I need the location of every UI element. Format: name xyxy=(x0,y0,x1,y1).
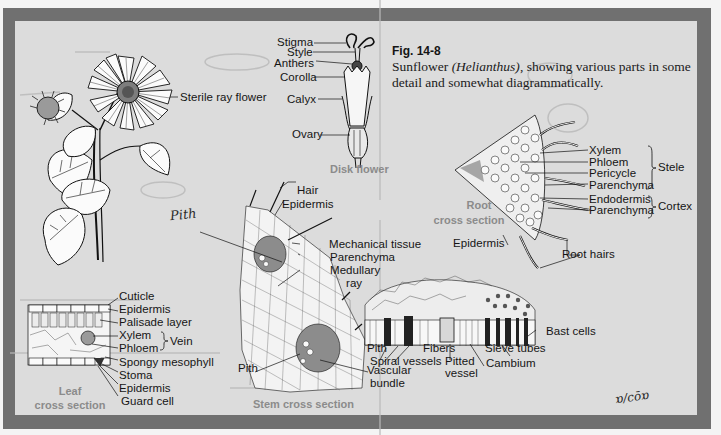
caption-scientific-name: (Helianthus) xyxy=(452,59,520,74)
label-stoma: Stoma xyxy=(119,369,153,382)
label-anthers: Anthers xyxy=(274,57,314,70)
label-sieve-tubes: Sieve tubes xyxy=(485,342,546,355)
caption-leaf-line1: Leaf xyxy=(50,385,90,398)
label-leaf-epidermis-upper: Epidermis xyxy=(119,303,171,316)
label-medullary-ray-2: ray xyxy=(346,277,362,290)
caption-root-line1: Root xyxy=(444,199,514,212)
label-bundle-pith: Pith xyxy=(367,342,387,355)
label-corolla: Corolla xyxy=(280,71,317,84)
label-cambium: Cambium xyxy=(486,357,536,370)
label-guard-cell: Guard cell xyxy=(121,395,174,408)
label-cuticle: Cuticle xyxy=(119,290,155,303)
label-cortex-group: Cortex xyxy=(658,200,692,213)
label-medullary-ray-1: Medullary xyxy=(330,264,380,277)
label-leaf-xylem: Xylem xyxy=(119,329,151,342)
figure-caption: Sunflower (Helianthus), showing various … xyxy=(392,59,692,90)
label-mechanical-tissue: Mechanical tissue xyxy=(329,238,421,251)
label-leaf-phloem: Phloem xyxy=(119,342,158,355)
caption-prefix: Sunflower xyxy=(392,59,452,74)
stem-cross-section-drawing xyxy=(200,182,368,392)
disk-flower-drawing xyxy=(342,34,374,168)
label-vascular-bundle-2: bundle xyxy=(370,377,405,390)
label-leaf-epidermis-lower: Epidermis xyxy=(119,382,171,395)
label-root-parenchyma-cortex: Parenchyma xyxy=(589,204,654,217)
caption-leaf-line2: cross section xyxy=(30,399,110,412)
label-stem-epidermis: Epidermis xyxy=(282,198,334,211)
label-calyx: Calyx xyxy=(287,93,316,106)
figure-number: Fig. 14-8 xyxy=(392,44,441,58)
caption-disk-flower: Disk flower xyxy=(330,163,389,176)
label-vein-group: Vein xyxy=(170,335,193,348)
label-ovary: Ovary xyxy=(292,128,323,141)
label-stem-hair: Hair xyxy=(297,184,318,197)
label-bast-cells: Bast cells xyxy=(546,325,596,338)
label-spiral-vessels: Spiral vessels xyxy=(370,355,442,368)
label-root-epidermis: Epidermis xyxy=(453,237,505,250)
sunflower-plant-drawing xyxy=(30,54,172,265)
handwritten-pith-note: Pith xyxy=(169,206,197,224)
label-palisade-layer: Palisade layer xyxy=(119,316,192,329)
caption-root-line2: cross section xyxy=(424,214,514,227)
caption-stem-cross-section: Stem cross section xyxy=(253,398,354,411)
label-stem-pith: Pith xyxy=(238,362,258,375)
label-stem-parenchyma: Parenchyma xyxy=(330,251,395,264)
label-fibers: Fibers xyxy=(423,342,455,355)
label-sterile-ray-flower: Sterile ray flower xyxy=(180,91,267,104)
label-root-parenchyma-stele: Parenchyma xyxy=(589,179,654,192)
label-root-hairs: Root hairs xyxy=(562,248,615,261)
label-spongy-mesophyll: Spongy mesophyll xyxy=(119,356,214,369)
label-pitted-vessel-2: vessel xyxy=(445,367,478,380)
label-stele-group: Stele xyxy=(658,161,684,174)
